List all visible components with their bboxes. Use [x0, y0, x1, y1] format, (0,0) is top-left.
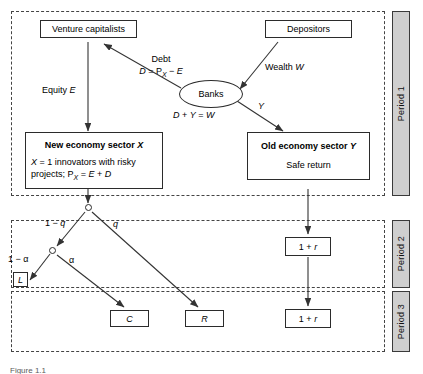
figure-canvas: Period 1 Period 2 Period 3: [0, 0, 423, 374]
prob-q-label: q: [113, 219, 118, 231]
old-economy-title: Old economy sector Y: [261, 141, 356, 151]
loss-label: L: [18, 275, 23, 285]
debt-formula: D = PX − E: [118, 66, 204, 79]
branch-node-q: [85, 204, 92, 211]
debt-label: Debt D = PX − E: [118, 54, 204, 79]
figure-caption: Figure 1.1: [10, 366, 46, 374]
new-economy-subtitle: X = 1 innovators with risky projects; PX…: [31, 157, 157, 182]
wealth-label: Wealth W: [265, 62, 304, 74]
branch-node-alpha: [49, 247, 56, 254]
return-period3-label: 1 + r: [299, 314, 317, 324]
prob-one-minus-alpha-label: 1 − α: [8, 254, 28, 266]
new-economy-subtitle-line1: X = 1 innovators with risky: [31, 157, 136, 167]
outcome-c-box: C: [110, 310, 149, 327]
depositors-label: Depositors: [287, 24, 330, 34]
return-period2-label: 1 + r: [299, 242, 317, 252]
loss-box: L: [13, 272, 28, 287]
debt-title: Debt: [118, 54, 204, 66]
depositors-box: Depositors: [265, 20, 352, 38]
balance-label: D + Y = W: [173, 110, 215, 122]
outcome-c-label: C: [126, 314, 133, 324]
venture-capitalists-label: Venture capitalists: [52, 24, 125, 34]
banks-ellipse: Banks: [179, 80, 243, 108]
outcome-r-label: R: [201, 314, 208, 324]
return-period2-box: 1 + r: [285, 237, 331, 256]
return-period3-box: 1 + r: [285, 309, 331, 328]
prob-alpha-label: α: [69, 255, 74, 267]
venture-capitalists-box: Venture capitalists: [40, 20, 137, 38]
new-economy-subtitle-line2: projects; PX = E + D: [31, 169, 111, 179]
banks-label: Banks: [198, 89, 223, 99]
new-economy-sector-box: New economy sector X X = 1 innovators wi…: [25, 132, 163, 189]
new-economy-title: New economy sector X: [45, 140, 144, 150]
prob-one-minus-q-label: 1 − q: [45, 218, 65, 230]
old-economy-subtitle: Safe return: [286, 160, 331, 171]
y-flow-label: Y: [258, 101, 264, 113]
outcome-r-box: R: [185, 310, 224, 327]
equity-label: Equity E: [42, 85, 76, 97]
old-economy-sector-box: Old economy sector Y Safe return: [247, 132, 370, 180]
